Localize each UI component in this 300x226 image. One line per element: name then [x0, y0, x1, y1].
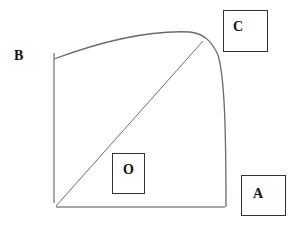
label-o: O: [123, 162, 134, 178]
label-c: C: [233, 19, 243, 35]
label-b: B: [14, 48, 23, 64]
box-c: C: [223, 10, 268, 52]
label-a: A: [253, 186, 263, 202]
box-o: O: [112, 153, 145, 194]
box-a: A: [241, 175, 286, 216]
